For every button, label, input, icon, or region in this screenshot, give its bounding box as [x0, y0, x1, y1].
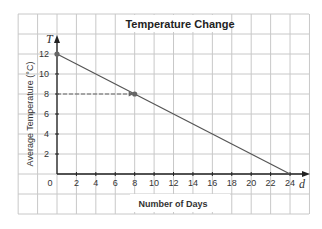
y-axis-arrow-icon — [54, 35, 60, 43]
temperature-chart: Temperature Change 246810121416182022242… — [0, 0, 322, 229]
data-point — [54, 51, 59, 56]
y-tick-label: 4 — [44, 129, 49, 139]
y-tick-label: 8 — [44, 89, 49, 99]
y-tick-label: 12 — [39, 49, 49, 59]
x-tick-label: 12 — [169, 178, 179, 188]
x-tick-label: 20 — [246, 178, 256, 188]
tick-labels: 2468101214161820222424681012 — [39, 49, 295, 188]
chart-title: Temperature Change — [125, 18, 234, 30]
y-tick-label: 2 — [44, 149, 49, 159]
x-tick-label: 14 — [188, 178, 198, 188]
y-tick-label: 10 — [39, 69, 49, 79]
data-point — [132, 91, 137, 96]
y-axis-label: Average Temperature (°C) — [25, 62, 35, 167]
y-tick-label: 6 — [44, 109, 49, 119]
x-tick-label: 24 — [285, 178, 295, 188]
x-tick-label: 18 — [227, 178, 237, 188]
x-tick-label: 6 — [113, 178, 118, 188]
x-tick-label: 4 — [93, 178, 98, 188]
origin-label: 0 — [47, 178, 52, 188]
x-axis-label: Number of Days — [138, 199, 207, 209]
x-tick-label: 8 — [132, 178, 137, 188]
x-tick-label: 16 — [207, 178, 217, 188]
plot-area — [54, 51, 290, 174]
x-tick-label: 10 — [149, 178, 159, 188]
x-tick-label: 2 — [74, 178, 79, 188]
x-variable-label: d — [299, 177, 306, 191]
axes — [54, 35, 310, 177]
x-tick-label: 22 — [266, 178, 276, 188]
